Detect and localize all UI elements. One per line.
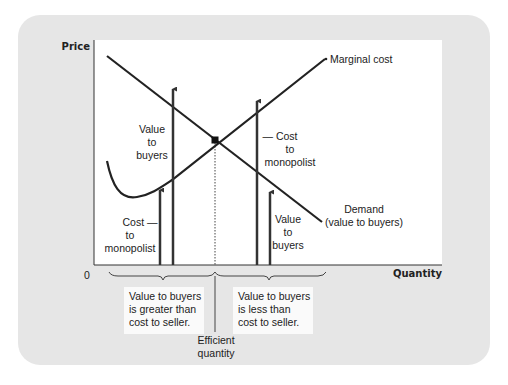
left-cost-label-2: to xyxy=(126,229,135,241)
left-brace xyxy=(109,272,215,280)
left-box-line2: is greater than xyxy=(129,303,196,315)
demand-label-line2: (value to buyers) xyxy=(325,216,403,228)
left-box-line3: cost to seller. xyxy=(129,316,190,328)
monopoly-efficiency-diagram: Price Quantity 0 Marginal cost Demand (v… xyxy=(0,0,508,385)
marginal-cost-label: Marginal cost xyxy=(330,53,393,65)
right-value-label-2: to xyxy=(284,226,293,238)
left-value-label-2: to xyxy=(148,136,157,148)
right-cost-label-1: — Cost xyxy=(262,130,297,142)
origin-label: 0 xyxy=(84,269,90,281)
demand-label-line1: Demand xyxy=(344,203,384,215)
x-axis-label: Quantity xyxy=(393,268,442,279)
right-value-label-3: buyers xyxy=(272,239,304,251)
left-cost-label-3: monopolist xyxy=(105,242,156,254)
right-box-line2: is less than xyxy=(238,303,291,315)
right-brace xyxy=(215,272,326,280)
left-value-label-3: buyers xyxy=(136,149,168,161)
efficient-label-2: quantity xyxy=(198,347,236,359)
y-axis-label: Price xyxy=(62,41,91,52)
left-box-line1: Value to buyers xyxy=(129,290,201,302)
right-box-line1: Value to buyers xyxy=(238,290,310,302)
right-cost-label-2: to xyxy=(286,143,295,155)
right-cost-label-3: monopolist xyxy=(265,156,316,168)
left-cost-label-1: Cost — xyxy=(122,216,158,228)
left-value-label-1: Value xyxy=(139,123,165,135)
right-value-label-1: Value xyxy=(275,213,301,225)
mc-label-dot xyxy=(325,58,328,61)
efficient-label-1: Efficient xyxy=(197,334,234,346)
equilibrium-point xyxy=(212,137,219,144)
right-box-line3: cost to seller. xyxy=(238,316,299,328)
